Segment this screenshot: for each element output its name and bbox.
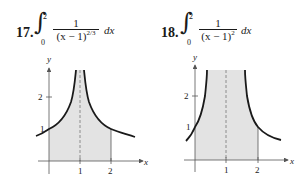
x-tick-label-1: 1 xyxy=(78,166,83,176)
x-axis-label: x xyxy=(143,157,148,167)
x-tick-label-1: 1 xyxy=(224,165,229,175)
y-tick-label-1: 1 xyxy=(186,122,191,132)
y-tick-label-2: 2 xyxy=(184,91,189,101)
y-axis-label: y xyxy=(192,52,197,62)
x-tick-label-2: 2 xyxy=(255,165,260,175)
graphs: y x 2 1 1 2 y x 2 1 1 2 xyxy=(0,0,308,182)
y-axis-label: y xyxy=(46,54,51,64)
y-tick-label-2: 2 xyxy=(38,92,43,102)
shaded-area xyxy=(195,70,258,160)
graph-17: y x 2 1 1 2 xyxy=(36,54,148,176)
x-tick-label-2: 2 xyxy=(108,166,113,176)
y-tick-label-1: 1 xyxy=(40,124,45,134)
graph-18: y x 2 1 1 2 xyxy=(184,52,294,175)
x-axis-label: x xyxy=(289,156,294,166)
